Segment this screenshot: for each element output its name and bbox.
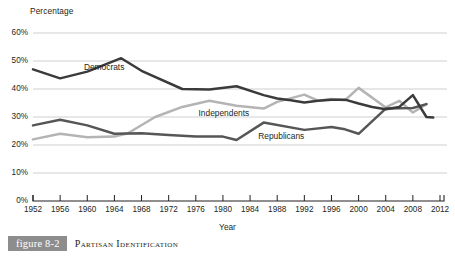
figure-caption-text: Partisan Identification <box>67 236 178 251</box>
x-tick-label-1980: 1980 <box>208 206 238 214</box>
x-tick-label-2012: 2012 <box>425 206 455 214</box>
series-label-democrats: Democrats <box>84 62 125 72</box>
y-tick-label-20: 20% <box>0 141 28 149</box>
y-tick-label-30: 30% <box>0 113 28 121</box>
x-tick-label-1988: 1988 <box>262 206 292 214</box>
series-label-republicans: Republicans <box>258 131 304 141</box>
x-tick-label-2008: 2008 <box>398 206 428 214</box>
y-tick-label-40: 40% <box>0 85 28 93</box>
x-axis-baseline <box>33 195 444 201</box>
x-tick-label-1984: 1984 <box>235 206 265 214</box>
x-tick-label-1972: 1972 <box>154 206 184 214</box>
x-tick-label-2000: 2000 <box>344 206 374 214</box>
x-axis-title: Year <box>0 222 455 232</box>
figure-number-tag: figure 8-2 <box>8 236 67 251</box>
figure-caption: figure 8-2 Partisan Identification <box>8 236 178 251</box>
x-tick-label-1956: 1956 <box>45 206 75 214</box>
x-tick-label-1996: 1996 <box>316 206 346 214</box>
axis-lines-group <box>33 195 444 201</box>
y-tick-label-50: 50% <box>0 57 28 65</box>
y-tick-label-10: 10% <box>0 169 28 177</box>
series-label-independents: Independents <box>199 108 250 118</box>
gridlines-group <box>33 33 447 173</box>
x-axis-ticks-group <box>33 195 440 201</box>
x-tick-label-1968: 1968 <box>127 206 157 214</box>
x-tick-label-1960: 1960 <box>72 206 102 214</box>
x-tick-label-1976: 1976 <box>181 206 211 214</box>
x-tick-label-1964: 1964 <box>99 206 129 214</box>
x-tick-label-1992: 1992 <box>289 206 319 214</box>
y-tick-label-60: 60% <box>0 29 28 37</box>
x-tick-label-2004: 2004 <box>371 206 401 214</box>
x-tick-label-1952: 1952 <box>18 206 48 214</box>
y-tick-label-0: 0% <box>0 197 28 205</box>
figure-partisan-identification: Percentage 0%10%20%30%40%50%60% 19521956… <box>0 0 455 258</box>
